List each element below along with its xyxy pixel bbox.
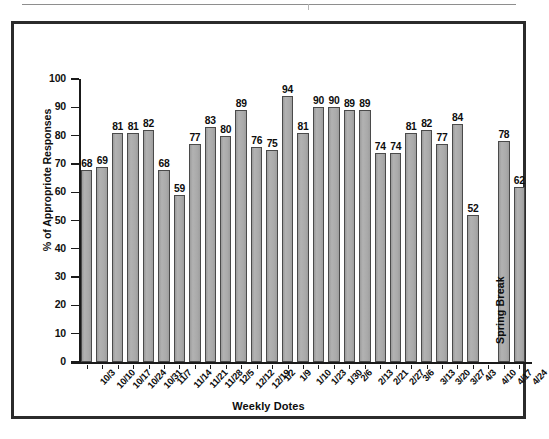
bar-series: 6869818182685977838089767594819090898974… xyxy=(79,79,529,362)
x-tick-1/10 xyxy=(303,365,304,369)
bar-slot: 89 xyxy=(233,79,248,362)
x-tick-4/17 xyxy=(504,365,505,369)
bar-value-label: 90 xyxy=(313,95,324,106)
x-tick-2/27 xyxy=(396,365,397,369)
bar-value-label: 74 xyxy=(390,141,401,152)
bar-value-label: 76 xyxy=(251,135,262,146)
bar-value-label: 68 xyxy=(159,158,170,169)
y-tick-100 xyxy=(71,78,79,79)
bar[interactable] xyxy=(81,170,92,362)
bar[interactable] xyxy=(405,133,416,362)
x-tick-11/14 xyxy=(179,365,180,369)
bar-value-label: 83 xyxy=(205,115,216,126)
bar[interactable] xyxy=(251,147,262,362)
bar-slot: 77 xyxy=(187,79,202,362)
x-tick-3/13 xyxy=(427,365,428,369)
bar-slot: 68 xyxy=(156,79,171,362)
bar-value-label: 81 xyxy=(112,121,123,132)
y-tick-90 xyxy=(71,107,79,108)
bar-value-label: 94 xyxy=(282,84,293,95)
bar[interactable] xyxy=(297,133,308,362)
bar-value-label: 81 xyxy=(406,121,417,132)
x-tick-10/24 xyxy=(133,365,134,369)
bar-slot: 94 xyxy=(280,79,295,362)
bar[interactable] xyxy=(452,124,463,362)
bar[interactable] xyxy=(220,136,231,362)
bar-value-label: 81 xyxy=(298,121,309,132)
bar-value-label: 90 xyxy=(328,95,339,106)
bar[interactable] xyxy=(143,130,154,362)
x-tick-4/3 xyxy=(473,365,474,369)
y-axis-title: % of Appropriote Responses xyxy=(41,75,53,285)
bar[interactable] xyxy=(390,153,401,362)
x-tick-label-2/6: 2/6 xyxy=(358,367,374,383)
chart-figure-frame: 1009080706050403020100 % of Appropriote … xyxy=(11,21,526,419)
bar[interactable] xyxy=(235,110,246,362)
x-tick-12/19 xyxy=(257,365,258,369)
x-tick-2/21 xyxy=(380,365,381,369)
y-tick-label-20: 20 xyxy=(40,298,66,310)
page-top-rule-tick xyxy=(308,4,309,10)
bar-value-label: 75 xyxy=(267,138,278,149)
bar-value-label: 89 xyxy=(359,98,370,109)
bar[interactable] xyxy=(328,107,339,362)
x-tick-label-4/3: 4/3 xyxy=(482,367,498,383)
x-tick-11/21 xyxy=(195,365,196,369)
x-tick-4/10 xyxy=(488,365,489,369)
bar-slot: 89 xyxy=(342,79,357,362)
x-tick-12/12 xyxy=(241,365,242,369)
y-tick-30 xyxy=(71,276,79,277)
bar[interactable] xyxy=(313,107,324,362)
bar-value-label: 89 xyxy=(344,98,355,109)
bar[interactable] xyxy=(158,170,169,362)
bar[interactable] xyxy=(436,144,447,362)
bar-value-label: 69 xyxy=(97,155,108,166)
x-axis-line xyxy=(71,362,532,364)
bar[interactable] xyxy=(359,110,370,362)
x-tick-label-3/6: 3/6 xyxy=(420,367,436,383)
x-tick-3/20 xyxy=(442,365,443,369)
bar-slot: 81 xyxy=(295,79,310,362)
bar-value-label: 74 xyxy=(375,141,386,152)
bar-value-label: 89 xyxy=(236,98,247,109)
y-tick-70 xyxy=(71,163,79,164)
bar-slot: 81 xyxy=(110,79,125,362)
bar[interactable] xyxy=(467,215,478,362)
bar-slot: 83 xyxy=(203,79,218,362)
y-tick-0 xyxy=(71,361,79,362)
bar-value-label: 77 xyxy=(437,132,448,143)
bar[interactable] xyxy=(421,130,432,362)
bar-value-label: 82 xyxy=(421,118,432,129)
y-tick-80 xyxy=(71,135,79,136)
bar[interactable] xyxy=(205,127,216,362)
bar-value-label: 77 xyxy=(189,132,200,143)
bar-slot: 75 xyxy=(264,79,279,362)
x-tick-10/31 xyxy=(149,365,150,369)
bar[interactable] xyxy=(344,110,355,362)
x-tick-label-1/9: 1/9 xyxy=(296,367,312,383)
bar-slot: 52 xyxy=(465,79,480,362)
y-tick-60 xyxy=(71,192,79,193)
bar-slot: 68 xyxy=(79,79,94,362)
bar[interactable] xyxy=(266,150,277,362)
bar-value-label: 84 xyxy=(452,112,463,123)
x-tick-3/27 xyxy=(457,365,458,369)
bar[interactable] xyxy=(514,187,525,362)
bar-value-label: 59 xyxy=(174,183,185,194)
x-tick-2/13 xyxy=(365,365,366,369)
x-tick-10/10 xyxy=(102,365,103,369)
bar[interactable] xyxy=(375,153,386,362)
x-tick-11/7 xyxy=(164,365,165,369)
bar-slot: 90 xyxy=(311,79,326,362)
bar[interactable] xyxy=(282,96,293,362)
bar[interactable] xyxy=(96,167,107,362)
x-tick-12/5 xyxy=(226,365,227,369)
bar[interactable] xyxy=(174,195,185,362)
x-tick-2/6 xyxy=(349,365,350,369)
y-tick-10 xyxy=(71,333,79,334)
bar-value-label: 52 xyxy=(467,203,478,214)
bar[interactable] xyxy=(112,133,123,362)
y-tick-label-0: 0 xyxy=(40,355,66,367)
bar[interactable] xyxy=(127,133,138,362)
bar[interactable] xyxy=(189,144,200,362)
